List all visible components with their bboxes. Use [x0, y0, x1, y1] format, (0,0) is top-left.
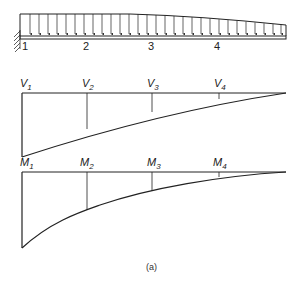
moment-label-m3: M3: [147, 156, 161, 171]
loaded-beam: 1 2 3 4: [14, 14, 286, 52]
moment-diagram: M1 M2 M3 M4: [20, 156, 286, 248]
shear-label-v4: V4: [214, 77, 226, 92]
shear-label-v1: V1: [20, 77, 32, 92]
beam: [20, 36, 286, 39]
moment-label-m2: M2: [80, 156, 94, 171]
moment-label-m1: M1: [20, 156, 34, 171]
fixed-support-icon: [14, 30, 20, 52]
beam-diagram-figure: 1 2 3 4 V1 V2 V3 V4 M1 M2 M3 M4 (a): [0, 0, 299, 283]
shear-label-v3: V3: [147, 77, 159, 92]
node-label-3: 3: [148, 40, 154, 52]
moment-label-m4: M4: [213, 156, 227, 171]
load-arrows: [30, 14, 281, 34]
node-label-2: 2: [83, 40, 89, 52]
node-label-4: 4: [214, 40, 220, 52]
shear-diagram: V1 V2 V3 V4: [20, 77, 286, 157]
shear-label-v2: V2: [82, 77, 94, 92]
figure-caption: (a): [146, 262, 157, 272]
node-label-1: 1: [22, 40, 28, 52]
